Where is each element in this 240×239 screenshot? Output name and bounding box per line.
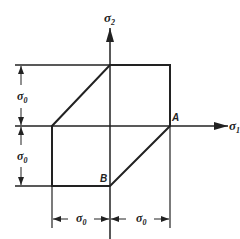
point-a-label: A <box>171 112 179 123</box>
sigma2-label: σ2 <box>104 10 115 27</box>
yield-diagram: σ2 σ1 A B σ0 σ0 σ0 σ0 <box>0 0 240 239</box>
dim-bottom-left-label: σ0 <box>76 211 86 227</box>
dim-left-upper-label: σ0 <box>17 89 27 105</box>
point-b-label: B <box>100 173 107 184</box>
sigma1-label: σ1 <box>229 118 240 135</box>
dim-left-lower-label: σ0 <box>17 149 27 165</box>
dim-bottom-right-label: σ0 <box>136 211 146 227</box>
